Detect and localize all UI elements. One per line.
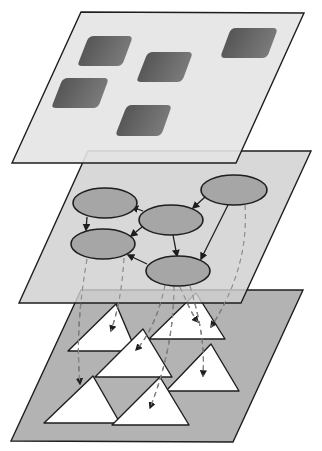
node-n2: [71, 229, 135, 259]
node-n5: [146, 256, 210, 286]
node-n4: [201, 175, 267, 205]
node-n3: [139, 205, 203, 235]
diagram-canvas: [0, 0, 322, 451]
square-sq3: [221, 28, 276, 58]
top-plane: [12, 12, 304, 163]
node-n1: [73, 188, 137, 218]
layered-diagram: [0, 0, 322, 451]
